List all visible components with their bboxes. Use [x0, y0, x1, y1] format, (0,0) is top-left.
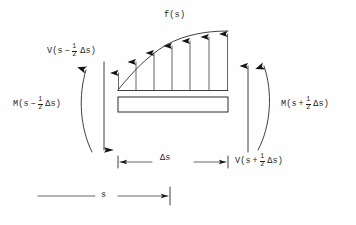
shear-left-prefix: V(s [47, 47, 63, 56]
beam-element [118, 97, 228, 112]
fraction-denominator: 2 [72, 51, 77, 59]
moment-left-operator: − [29, 100, 37, 109]
load-function-label: f(s) [164, 11, 185, 20]
fraction-numerator: 1 [260, 154, 265, 161]
left-end-forces [81, 62, 104, 152]
shear-left-operator: − [63, 47, 71, 56]
shear-right-suffix: Δs) [267, 157, 283, 166]
moment-left-suffix: Δs) [45, 100, 61, 109]
moment-left-fraction: 1 2 [38, 97, 43, 112]
diagram-canvas [0, 0, 356, 225]
distributed-load-group [118, 31, 228, 91]
moment-left-prefix: M(s [13, 100, 29, 109]
moment-arc-right [258, 66, 270, 150]
shear-right-fraction: 1 2 [260, 154, 265, 169]
shear-left-suffix: Δs) [80, 47, 96, 56]
station-label: s [101, 191, 106, 200]
moment-right-label: M(s + 1 2 Δs) [281, 97, 329, 112]
right-end-forces [248, 66, 270, 152]
shear-right-label: V(s + 1 2 Δs) [235, 154, 283, 169]
free-body-diagram: f(s) V(s − 1 2 Δs) M(s − 1 2 Δs) M(s [0, 0, 356, 225]
element-length-label: Δs [160, 154, 171, 163]
fraction-denominator: 2 [260, 161, 265, 169]
moment-right-prefix: M(s [281, 100, 297, 109]
shear-right-operator: + [251, 157, 259, 166]
moment-right-suffix: Δs) [313, 100, 329, 109]
fraction-numerator: 1 [72, 44, 77, 51]
shear-left-fraction: 1 2 [72, 44, 77, 59]
load-arrows [119, 34, 228, 90]
fraction-numerator: 1 [306, 97, 311, 104]
fraction-denominator: 2 [306, 104, 311, 112]
shear-left-label: V(s − 1 2 Δs) [47, 44, 96, 59]
moment-right-fraction: 1 2 [306, 97, 311, 112]
moment-right-operator: + [297, 100, 305, 109]
load-curve [118, 31, 228, 90]
dimension-delta-s [118, 156, 228, 168]
shear-right-prefix: V(s [235, 157, 251, 166]
fraction-numerator: 1 [38, 97, 43, 104]
moment-left-label: M(s − 1 2 Δs) [13, 97, 61, 112]
fraction-denominator: 2 [38, 104, 43, 112]
moment-arc-left [81, 70, 92, 152]
